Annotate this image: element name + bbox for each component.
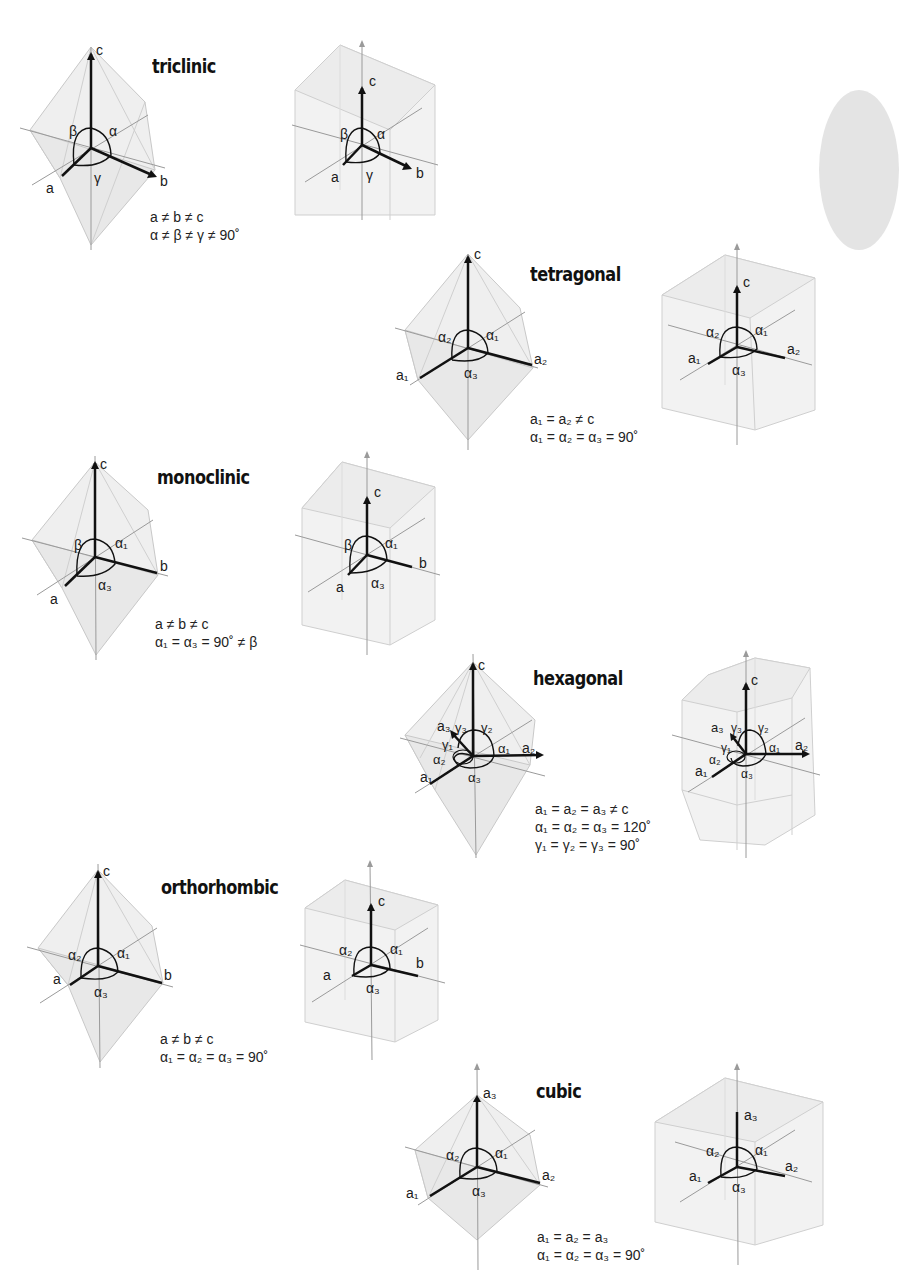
bipyramid-diagram: c a b α₂ α₁ α₃ (0, 840, 300, 1070)
angle-label-alpha2: α₂ (446, 1147, 460, 1163)
angle-label-gamma1: γ₁ (721, 741, 731, 755)
axis-label-c: c (100, 456, 107, 472)
angle-label-alpha2: α₂ (68, 947, 82, 963)
angle-label-alpha2: α₂ (709, 753, 721, 767)
equation-angles: α₁ = α₂ = α₃ = 90˚ (537, 1246, 645, 1264)
axis-label-c: c (474, 246, 481, 262)
axis-label-b: b (419, 555, 427, 571)
axis-label-a1: a₁ (688, 350, 701, 366)
axis-label-a1: a₁ (695, 763, 708, 779)
unit-cell-diagram: c a₁ a₂ α₂ α₁ α₃ (640, 230, 859, 460)
axis-label-a2: a₂ (542, 1167, 555, 1183)
axis-label-a3: a₃ (744, 1107, 758, 1123)
angle-label-alpha1: α₁ (769, 741, 780, 755)
unit-cell-diagram: c a₁ a₂ a₃ γ₁ γ₂ γ₃ α₁ α₂ α₃ (640, 640, 859, 870)
angle-label-alpha2: α₂ (706, 1143, 720, 1159)
angle-label-alpha3: α₃ (472, 1183, 486, 1199)
equation-axes: a₁ = a₂ = a₃ (537, 1228, 608, 1246)
axis-label-a2: a₂ (534, 351, 547, 367)
axis-label-a: a (46, 180, 54, 196)
angle-label-alpha1: α₁ (495, 1145, 508, 1161)
equation-axes: a ≠ b ≠ c (150, 208, 204, 226)
angle-label-gamma: γ (366, 167, 373, 183)
equation-axes: a₁ = a₂ ≠ c (530, 410, 594, 428)
angle-label-alpha3: α₃ (94, 984, 108, 1000)
axis-label-a2: a₂ (522, 740, 535, 756)
angle-label-gamma3: γ₃ (731, 721, 742, 735)
equation-axes: a₁ = a₂ = a₃ ≠ c (535, 800, 629, 818)
axis-label-c: c (96, 42, 103, 58)
axis-label-b: b (416, 955, 424, 971)
unit-cell-diagram: c a b α₂ α₁ α₃ (280, 850, 480, 1060)
axis-label-b: b (160, 173, 168, 189)
angle-label-alpha: α (109, 123, 117, 139)
angle-label-gamma2: γ₂ (481, 720, 493, 735)
axis-label-c: c (369, 73, 376, 89)
angle-label-beta: β (340, 126, 348, 142)
angle-label-alpha1: α₁ (498, 741, 511, 756)
equation-angles-gamma: γ₁ = γ₂ = γ₃ = 90˚ (535, 836, 640, 854)
axis-label-a: a (336, 579, 344, 595)
angle-label-alpha1: α₁ (486, 327, 499, 343)
angle-label-beta: β (344, 537, 352, 553)
equation-axes: a ≠ b ≠ c (160, 1030, 214, 1048)
axis-label-a3: a₃ (483, 1085, 497, 1101)
angle-label-alpha3: α₃ (732, 362, 746, 378)
equation-angles: α ≠ β ≠ γ ≠ 90˚ (150, 226, 240, 244)
angle-label-alpha3: α₃ (366, 980, 380, 996)
angle-label-gamma1: γ₁ (442, 737, 454, 752)
axis-label-a2: a₂ (795, 737, 808, 753)
angle-label-alpha3: α₃ (98, 577, 112, 593)
angle-label-alpha3: α₃ (464, 365, 478, 381)
axis-label-c: c (378, 893, 385, 909)
angle-label-beta: β (69, 123, 77, 139)
page-edge-tab (819, 90, 899, 250)
angle-label-alpha1: α₁ (390, 941, 403, 957)
equation-angles: α₁ = α₂ = α₃ = 90˚ (160, 1048, 268, 1066)
angle-label-gamma: γ (94, 170, 101, 186)
angle-label-alpha3: α₃ (732, 1179, 746, 1195)
axis-label-a1: a₁ (689, 1168, 702, 1184)
angle-label-alpha1: α₁ (117, 945, 130, 961)
axis-label-b: b (164, 967, 172, 983)
axis-label-b: b (416, 165, 424, 181)
axis-label-a3: a₃ (711, 720, 724, 735)
angle-label-alpha2: α₂ (706, 324, 720, 340)
axis-label-c: c (478, 657, 485, 673)
angle-label-alpha1: α₁ (755, 1142, 768, 1158)
angle-label-alpha1: α₁ (385, 535, 398, 551)
angle-label-alpha3: α₃ (468, 770, 481, 785)
axis-label-c: c (374, 484, 381, 500)
bipyramid-diagram: c a b β α₁ α₃ (0, 440, 300, 660)
angle-label-alpha: α (377, 126, 385, 142)
axis-label-a2: a₂ (787, 341, 800, 357)
angle-label-alpha2: α₂ (339, 942, 353, 958)
axis-label-a: a (50, 591, 58, 607)
axis-label-a1: a₁ (396, 367, 409, 383)
angle-label-alpha3: α₃ (371, 575, 385, 591)
axis-label-c: c (743, 274, 750, 290)
equation-axes: a ≠ b ≠ c (155, 615, 209, 633)
axis-label-c: c (103, 863, 110, 879)
angle-label-alpha2: α₂ (433, 752, 446, 767)
angle-label-alpha2: α₂ (438, 329, 452, 345)
axis-label-c: c (751, 672, 758, 688)
axis-label-a: a (331, 169, 339, 185)
axis-label-a: a (323, 967, 331, 983)
axis-label-a1: a₁ (406, 1185, 419, 1201)
axis-label-a: a (53, 971, 61, 987)
axis-label-a1: a₁ (420, 769, 433, 785)
angle-label-gamma3: γ₃ (455, 720, 467, 735)
angle-label-beta: β (74, 537, 82, 553)
axis-label-a3: a₃ (437, 718, 451, 734)
unit-cell-diagram: c a b β α₁ α₃ (280, 440, 480, 670)
equation-angles-alpha: α₁ = α₂ = α₃ = 120˚ (535, 818, 651, 836)
axis-label-b: b (160, 558, 168, 574)
unit-cell-diagram: a₃ a₁ a₂ α₂ α₁ α₃ (640, 1040, 859, 1285)
unit-cell-diagram: c a b β α γ (280, 20, 480, 220)
angle-label-alpha1: α₁ (115, 535, 128, 551)
axis-label-a2: a₂ (785, 1158, 798, 1174)
angle-label-alpha3: α₃ (741, 767, 753, 781)
angle-label-gamma2: γ₂ (758, 721, 769, 735)
equation-angles: α₁ = α₃ = 90˚ ≠ β (155, 633, 257, 651)
